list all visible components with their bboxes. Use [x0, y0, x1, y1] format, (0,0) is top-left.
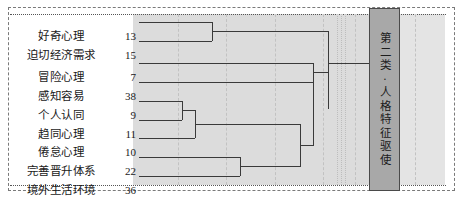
connector-line-5	[313, 72, 329, 73]
leaf-value: 11	[110, 128, 136, 140]
leaf-value: 7	[110, 71, 136, 83]
leaf-line-8	[139, 176, 240, 177]
connector-line-2	[195, 124, 301, 125]
leaf-line-1	[139, 41, 212, 42]
leaf-value: 13	[110, 30, 136, 42]
leaf-label: 倦怠心理	[12, 146, 110, 158]
gridline	[178, 14, 179, 185]
gridline	[345, 14, 346, 185]
leaf-value: 38	[110, 90, 136, 102]
leaf-value: 15	[110, 49, 136, 61]
leaf-label-column: 好奇心理 13 迫切经济需求 15 冒险心理 7 感知容易 38 个人认同 9 …	[12, 14, 134, 185]
cluster-label-text: 第二类·人格特征驱使	[378, 32, 391, 167]
leaf-value: 9	[110, 109, 136, 121]
leaf-line-3	[139, 82, 313, 83]
leaf-line-5	[139, 120, 182, 121]
leaf-line-2	[139, 63, 313, 64]
gridline	[337, 14, 338, 185]
merge-node-5	[313, 63, 314, 145]
connector-line-3	[240, 166, 301, 167]
connector-line-4	[300, 145, 314, 146]
connector-line-0	[212, 31, 329, 32]
leaf-line-0	[139, 22, 212, 23]
leaf-label: 境外生活环境	[12, 184, 110, 196]
leaf-label: 冒险心理	[12, 71, 110, 83]
leaf-value: 10	[110, 146, 136, 158]
cluster-label-box: 第二类·人格特征驱使	[369, 8, 400, 191]
dendrogram-screenshot: 好奇心理 13 迫切经济需求 15 冒险心理 7 感知容易 38 个人认同 9 …	[0, 0, 465, 200]
gridline	[415, 14, 416, 185]
connector-line-1	[182, 110, 196, 111]
leaf-value: 36	[110, 184, 136, 196]
gridline	[226, 14, 227, 185]
leaf-label: 迫切经济需求	[12, 49, 110, 61]
leaf-line-4	[139, 101, 182, 102]
leaf-line-6	[139, 138, 195, 139]
leaf-line-7	[139, 157, 240, 158]
leaf-label: 完善晋升体系	[12, 165, 110, 177]
leaf-label: 趋同心理	[12, 128, 110, 140]
root-line	[328, 63, 373, 64]
gridline	[355, 14, 356, 185]
leaf-label: 感知容易	[12, 90, 110, 102]
gridline	[323, 14, 324, 185]
leaf-value: 22	[110, 165, 136, 177]
gridline	[275, 14, 276, 185]
leaf-label: 好奇心理	[12, 30, 110, 42]
gridline	[341, 14, 342, 185]
leaf-label: 个人认同	[12, 109, 110, 121]
merge-node-6	[328, 31, 329, 109]
